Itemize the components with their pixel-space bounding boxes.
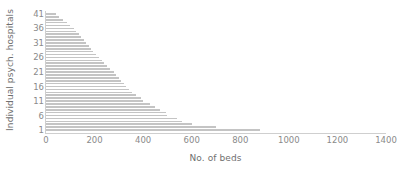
bar bbox=[46, 33, 79, 35]
bar bbox=[46, 13, 56, 15]
bar bbox=[46, 129, 260, 131]
x-tick-label: 0 bbox=[26, 136, 66, 145]
x-axis-title: No. of beds bbox=[45, 153, 386, 163]
bar bbox=[46, 106, 155, 108]
y-tick-label: 41 bbox=[18, 10, 44, 19]
bar bbox=[46, 112, 166, 114]
y-tick-label: 11 bbox=[18, 97, 44, 106]
x-tick-label: 1000 bbox=[269, 136, 309, 145]
y-tick-label: 21 bbox=[18, 68, 44, 77]
bar bbox=[46, 83, 124, 85]
bar bbox=[46, 121, 182, 123]
bar bbox=[46, 109, 160, 111]
bar bbox=[46, 31, 76, 33]
bar bbox=[46, 68, 110, 70]
bar bbox=[46, 28, 74, 30]
y-tick-label: 31 bbox=[18, 39, 44, 48]
bar bbox=[46, 48, 91, 50]
bar bbox=[46, 92, 132, 94]
bar bbox=[46, 36, 81, 38]
bar bbox=[46, 80, 121, 82]
bar bbox=[46, 94, 136, 96]
bar bbox=[46, 89, 129, 91]
bar bbox=[46, 39, 84, 41]
y-axis-tick-labels: 1611162126313641 bbox=[18, 0, 44, 145]
y-tick-label: 26 bbox=[18, 53, 44, 62]
y-axis-title-text: Individual psych. hospitals bbox=[5, 9, 15, 131]
bar bbox=[46, 100, 143, 102]
y-tick-label: 16 bbox=[18, 83, 44, 92]
bar bbox=[46, 103, 150, 105]
bar bbox=[46, 77, 119, 79]
x-tick-label: 1400 bbox=[366, 136, 401, 145]
bar bbox=[46, 74, 116, 76]
y-tick-label: 6 bbox=[18, 112, 44, 121]
bar bbox=[46, 118, 177, 120]
bar bbox=[46, 45, 89, 47]
bar bbox=[46, 25, 70, 27]
bar bbox=[46, 19, 63, 21]
bar bbox=[46, 16, 59, 18]
y-tick-label: 1 bbox=[18, 126, 44, 135]
x-tick-label: 600 bbox=[172, 136, 212, 145]
plot-area bbox=[45, 11, 386, 133]
bar bbox=[46, 42, 86, 44]
bar bbox=[46, 62, 104, 64]
x-tick-label: 800 bbox=[220, 136, 260, 145]
x-axis-line bbox=[45, 133, 386, 134]
bar bbox=[46, 60, 102, 62]
x-axis-tick-labels: 0200400600800100012001400 bbox=[45, 136, 386, 150]
x-tick-label: 1200 bbox=[317, 136, 357, 145]
x-tick-label: 400 bbox=[123, 136, 163, 145]
bar-series bbox=[46, 11, 386, 133]
bar bbox=[46, 86, 126, 88]
bar bbox=[46, 22, 67, 24]
x-tick-label: 200 bbox=[75, 136, 115, 145]
bar bbox=[46, 123, 192, 125]
bar bbox=[46, 54, 96, 56]
bar bbox=[46, 115, 167, 117]
bar bbox=[46, 65, 107, 67]
bar bbox=[46, 71, 114, 73]
y-tick-label: 36 bbox=[18, 24, 44, 33]
y-axis-title: Individual psych. hospitals bbox=[0, 0, 20, 140]
bar bbox=[46, 57, 99, 59]
bar bbox=[46, 51, 93, 53]
bar bbox=[46, 97, 141, 99]
bar bbox=[46, 126, 216, 128]
